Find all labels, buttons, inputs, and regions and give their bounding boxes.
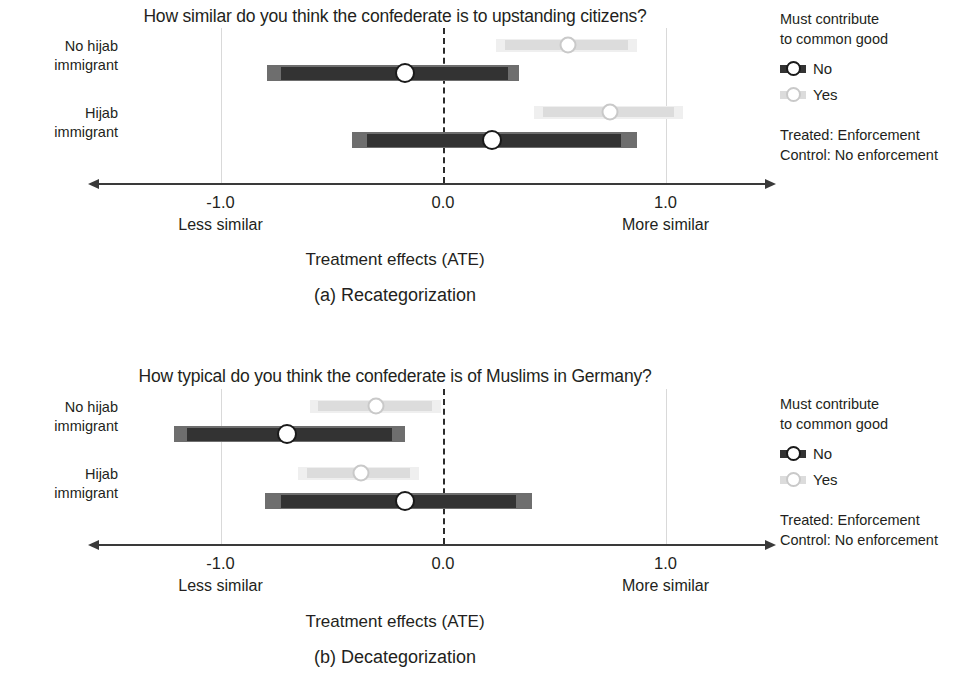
panel-a-title: How similar do you think the confederate…: [0, 6, 790, 27]
x-tick-label: 1.0: [654, 193, 677, 212]
legend-label-yes: Yes: [813, 86, 837, 103]
panel-recategorization: How similar do you think the confederate…: [0, 0, 980, 340]
axis-arrow-left-icon: [88, 179, 99, 189]
legend-entry-no[interactable]: No: [780, 440, 980, 466]
legend-label-no: No: [813, 60, 832, 77]
axis-title-a: Treatment effects (ATE): [0, 250, 790, 270]
x-tick-label: 1.0: [654, 554, 677, 573]
legend-label-no: No: [813, 445, 832, 462]
legend-a: Must contribute to common good No Yes Tr…: [780, 10, 980, 165]
legend-b: Must contribute to common good No Yes Tr…: [780, 395, 980, 550]
legend-note-control: Control: No enforcement: [780, 145, 980, 165]
row-label-line2: immigrant: [0, 123, 118, 142]
axis-end-label-less-similar: Less similar: [178, 577, 262, 595]
zero-reference-line: [443, 389, 445, 544]
point-estimate-marker: [352, 465, 369, 482]
legend-entry-no[interactable]: No: [780, 55, 980, 81]
row-label: Hijabimmigrant: [0, 104, 118, 142]
legend-note-treated: Treated: Enforcement: [780, 125, 980, 145]
point-estimate-marker: [601, 104, 618, 121]
legend-swatch-light-icon: [780, 471, 806, 488]
axis-title-b: Treatment effects (ATE): [0, 612, 790, 632]
legend-label-yes: Yes: [813, 471, 837, 488]
row-label-line1: Hijab: [0, 465, 118, 484]
panel-decategorization: How typical do you think the confederate…: [0, 347, 980, 687]
point-estimate-marker: [368, 398, 385, 415]
axis-arrow-right-icon: [765, 179, 776, 189]
legend-swatch-dark-icon: [780, 60, 806, 77]
point-estimate-marker: [559, 37, 576, 54]
legend-swatch-light-icon: [780, 86, 806, 103]
row-label-line2: immigrant: [0, 56, 118, 75]
x-axis-line: [98, 544, 766, 546]
x-tick-label: -1.0: [206, 193, 234, 212]
point-estimate-marker: [395, 63, 415, 83]
row-label: No hijabimmigrant: [0, 398, 118, 436]
row-label-line1: Hijab: [0, 104, 118, 123]
axis-arrow-right-icon: [765, 540, 776, 550]
legend-title-line1: Must contribute: [780, 10, 980, 30]
gridline: [666, 389, 667, 544]
panel-b-caption: (b) Decategorization: [0, 647, 790, 668]
point-estimate-marker: [277, 424, 297, 444]
legend-entry-yes[interactable]: Yes: [780, 466, 980, 492]
point-estimate-marker: [395, 491, 415, 511]
point-estimate-marker: [482, 130, 502, 150]
zero-reference-line: [443, 28, 445, 183]
legend-title-line1: Must contribute: [780, 395, 980, 415]
x-axis-line: [98, 183, 766, 185]
axis-arrow-left-icon: [88, 540, 99, 550]
row-label-line2: immigrant: [0, 417, 118, 436]
row-label-line1: No hijab: [0, 37, 118, 56]
x-tick-label: 0.0: [432, 193, 455, 212]
x-tick-label: 0.0: [432, 554, 455, 573]
figure-root: How similar do you think the confederate…: [0, 0, 980, 687]
gridline: [221, 28, 222, 183]
x-tick-label: -1.0: [206, 554, 234, 573]
legend-note-control: Control: No enforcement: [780, 530, 980, 550]
row-label: Hijabimmigrant: [0, 465, 118, 503]
row-label-line1: No hijab: [0, 398, 118, 417]
panel-a-caption: (a) Recategorization: [0, 285, 790, 306]
plot-area-a: -1.00.01.0Less similarMore similarNo hij…: [0, 28, 790, 198]
legend-entry-yes[interactable]: Yes: [780, 81, 980, 107]
axis-end-label-more-similar: More similar: [622, 577, 709, 595]
axis-end-label-less-similar: Less similar: [178, 216, 262, 234]
gridline: [221, 389, 222, 544]
row-label: No hijabimmigrant: [0, 37, 118, 75]
panel-b-title: How typical do you think the confederate…: [0, 366, 790, 387]
legend-title-line2: to common good: [780, 30, 980, 50]
legend-title-line2: to common good: [780, 415, 980, 435]
axis-end-label-more-similar: More similar: [622, 216, 709, 234]
plot-area-b: -1.00.01.0Less similarMore similarNo hij…: [0, 389, 790, 559]
row-label-line2: immigrant: [0, 484, 118, 503]
legend-swatch-dark-icon: [780, 445, 806, 462]
legend-note-treated: Treated: Enforcement: [780, 510, 980, 530]
confidence-interval-inner: [281, 67, 508, 80]
